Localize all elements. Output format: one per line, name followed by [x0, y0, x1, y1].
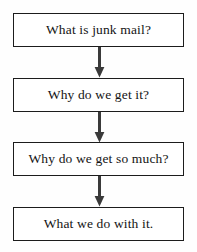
flowchart-node-3-label: Why do we get so much? — [28, 152, 168, 166]
flowchart-diagram: What is junk mail? Why do we get it? Why… — [0, 0, 197, 252]
flowchart-node-4-label: What we do with it. — [44, 217, 154, 231]
flowchart-node-2[interactable]: Why do we get it? — [13, 78, 184, 112]
down-arrow-icon-1 — [93, 47, 106, 78]
flowchart-node-2-label: Why do we get it? — [48, 88, 150, 102]
down-arrow-icon-3 — [93, 176, 106, 207]
flowchart-node-3[interactable]: Why do we get so much? — [13, 142, 184, 176]
down-arrow-icon-2 — [93, 112, 106, 143]
flowchart-node-4[interactable]: What we do with it. — [13, 207, 184, 241]
flowchart-node-1[interactable]: What is junk mail? — [13, 13, 184, 47]
flowchart-node-1-label: What is junk mail? — [46, 23, 151, 37]
